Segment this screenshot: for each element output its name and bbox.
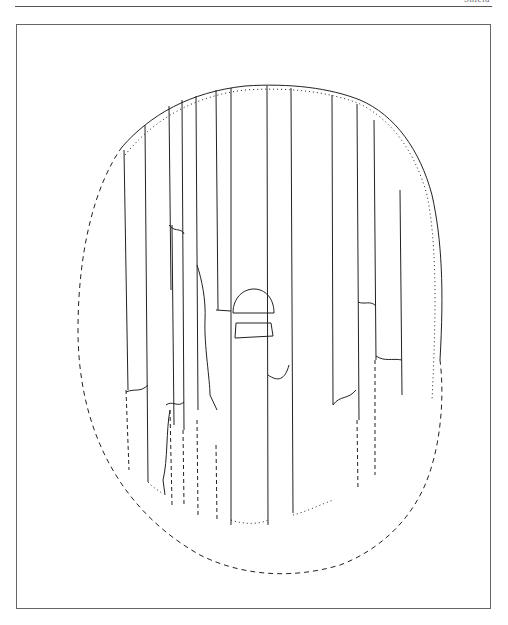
- shield-drawing: [0, 0, 508, 625]
- shield-inner-edge: [125, 89, 435, 400]
- shield-outline-reconstructed: [78, 147, 442, 574]
